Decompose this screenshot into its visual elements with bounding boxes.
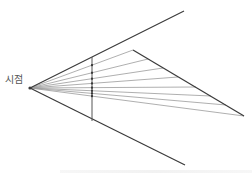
intersection-mark: [91, 82, 93, 84]
intersection-mark: [91, 72, 93, 74]
projection-ray: [30, 88, 244, 116]
projection-ray: [30, 88, 211, 96]
projection-ray: [30, 87, 196, 88]
faded-caption-strip: [60, 170, 252, 173]
perspective-diagram: 시점: [0, 0, 252, 176]
intersection-mark: [91, 92, 93, 94]
intersection-mark: [91, 64, 93, 66]
intersection-mark: [91, 90, 93, 92]
viewpoint-marker: [28, 86, 31, 89]
intersection-mark: [91, 78, 93, 80]
diagram-canvas: [0, 0, 252, 176]
projection-rays: [30, 50, 244, 116]
intersection-mark: [91, 95, 93, 97]
object-edge-line: [133, 50, 244, 116]
viewpoint-label: 시점: [5, 75, 23, 85]
intersection-mark: [91, 87, 93, 89]
projection-ray: [30, 50, 133, 88]
